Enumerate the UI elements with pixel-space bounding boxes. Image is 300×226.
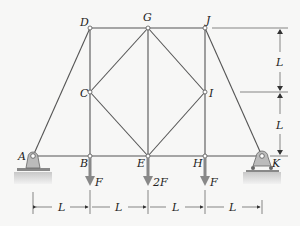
truss-diagram: D G J C I A B E H K F 2F F L L L L L L: [0, 0, 300, 226]
dim-label-3: L: [171, 201, 179, 214]
dim-label-1: L: [57, 201, 65, 214]
load-label-H: F: [209, 176, 218, 189]
label-G: G: [143, 11, 152, 24]
truss-members: [33, 28, 262, 156]
load-label-B: F: [94, 176, 103, 189]
label-J: J: [204, 14, 211, 27]
label-C: C: [80, 87, 89, 100]
vertical-dimensions: [212, 28, 288, 156]
horizontal-dimensions: [33, 190, 262, 214]
label-I: I: [208, 87, 214, 100]
member-IE: [148, 92, 205, 156]
label-H: H: [192, 157, 203, 170]
label-K: K: [271, 157, 281, 170]
member-CG: [90, 28, 148, 92]
label-E: E: [136, 157, 145, 170]
dim-label-v2: L: [275, 119, 283, 132]
truss-svg: D G J C I A B E H K F 2F F L L L L L L: [0, 0, 300, 226]
member-GI: [148, 28, 205, 92]
label-D: D: [79, 16, 89, 29]
dim-label-4: L: [228, 201, 236, 214]
load-arrows: [85, 158, 210, 186]
dim-label-v1: L: [275, 56, 283, 69]
member-CE: [90, 92, 148, 156]
label-B: B: [79, 157, 88, 170]
label-A: A: [17, 150, 26, 163]
dim-label-2: L: [114, 201, 122, 214]
load-label-E: 2F: [152, 176, 168, 189]
